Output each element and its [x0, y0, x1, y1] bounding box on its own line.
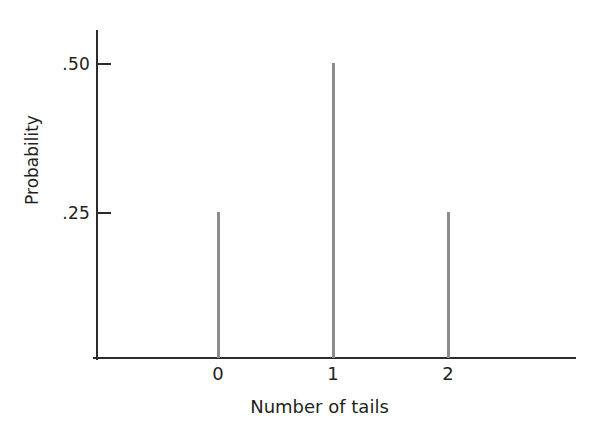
y-axis-ticklabel-050: .50 [48, 54, 90, 74]
y-axis-title: Probability [22, 100, 42, 220]
x-axis-ticklabel-2: 2 [428, 363, 468, 384]
y-axis-tick-050 [98, 63, 111, 65]
probability-distribution-chart: .50 .25 0 1 2 Probability Number of tail… [0, 0, 603, 431]
bar-probability-1 [332, 63, 335, 358]
bar-probability-0 [217, 212, 220, 358]
x-axis-title: Number of tails [250, 396, 389, 417]
y-axis-ticklabel-050-wrap: .50 [10, 54, 90, 74]
bar-probability-2 [447, 212, 450, 358]
y-axis-tick-025 [98, 212, 111, 214]
x-axis-title-wrap: Number of tails [0, 396, 603, 417]
y-axis-ticklabel-025: .25 [48, 203, 90, 223]
x-axis-ticklabel-0: 0 [198, 363, 238, 384]
x-axis-ticklabel-1: 1 [313, 363, 353, 384]
y-axis-line [96, 30, 98, 360]
